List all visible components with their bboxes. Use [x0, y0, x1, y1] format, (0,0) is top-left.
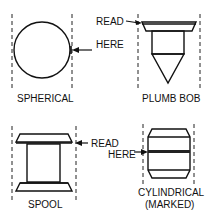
read-text: READ — [91, 138, 119, 149]
sphere-shape — [14, 22, 70, 78]
here-text: HERE — [96, 39, 124, 50]
spool-label: SPOOL — [28, 199, 63, 210]
read-text: READ — [96, 16, 124, 27]
plumb-bob-body — [152, 31, 184, 54]
spool-float: SPOOL — [12, 126, 76, 210]
read-here-annotation-top: READ HERE — [71, 16, 142, 54]
here-text: HERE — [108, 149, 136, 160]
plumb-bob-float — [138, 14, 200, 90]
marked-label: (MARKED) — [145, 199, 194, 210]
cylinder-marking-band — [148, 150, 190, 153]
arrow-head-icon — [141, 149, 148, 155]
spool-shaft — [27, 144, 60, 182]
cylindrical-float: CYLINDRICAL (MARKED) — [138, 124, 205, 210]
plumb-bob-label: PLUMB BOB — [142, 93, 201, 104]
plumb-bob-cone — [152, 54, 184, 83]
spool-top-flange — [16, 134, 72, 142]
spherical-float: SPHERICAL — [12, 14, 74, 104]
spool-bottom-flange — [16, 183, 72, 191]
spherical-label: SPHERICAL — [17, 93, 74, 104]
arrow-head-icon — [72, 47, 79, 53]
read-here-annotation-bottom: READ HERE — [75, 138, 148, 160]
float-reading-diagram: SPHERICAL PLUMB BOB READ HERE — [0, 0, 212, 224]
cylindrical-label: CYLINDRICAL — [138, 187, 205, 198]
